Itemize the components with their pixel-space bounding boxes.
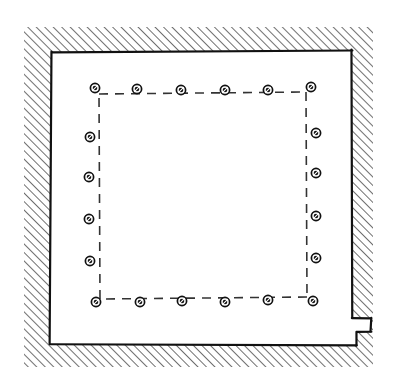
post-marker-bottom — [308, 296, 317, 305]
post-marker-right — [311, 128, 320, 137]
post-marker-right — [311, 253, 320, 262]
post-marker-bottom — [263, 295, 272, 304]
wall-edge-segment — [371, 318, 372, 331]
post-marker-bottom — [220, 297, 229, 306]
post-marker-left — [85, 132, 94, 141]
post-marker-bottom — [177, 296, 186, 305]
post-marker-bottom — [135, 297, 144, 306]
post-marker-top — [90, 83, 99, 92]
post-marker-left — [84, 172, 93, 181]
post-marker-right — [311, 168, 320, 177]
page-background — [0, 0, 398, 389]
post-marker-left — [84, 214, 93, 223]
floor-plan-drawing — [0, 0, 398, 389]
post-marker-top — [263, 85, 272, 94]
post-marker-top — [306, 82, 315, 91]
wall-edge-segment — [351, 50, 352, 318]
wall-edge-segment — [50, 344, 357, 345]
post-marker-bottom — [91, 297, 100, 306]
post-marker-left — [85, 256, 94, 265]
post-marker-top — [132, 84, 141, 93]
post-marker-top — [176, 85, 185, 94]
post-marker-right — [311, 211, 320, 220]
floor-plan-canvas — [0, 0, 398, 389]
post-marker-top — [220, 85, 229, 94]
